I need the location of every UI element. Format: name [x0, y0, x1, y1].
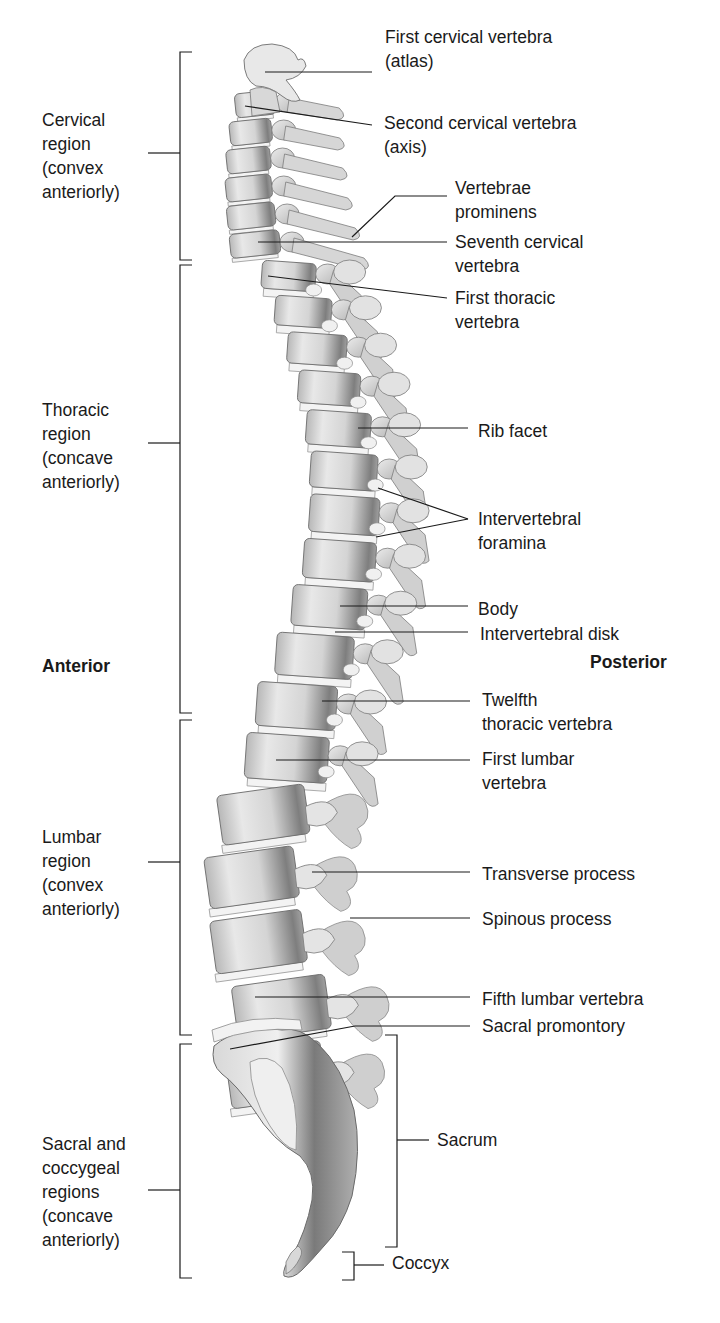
label-transverse-process: Transverse process	[482, 862, 635, 886]
label-twelfth-thoracic: Twelfth thoracic vertebra	[482, 688, 612, 736]
bracket-cervical	[180, 52, 192, 260]
vertebral-body-shape	[225, 146, 271, 174]
label-first-lumbar: First lumbar vertebra	[482, 747, 574, 795]
label-spinous-process: Spinous process	[482, 907, 611, 931]
posterior-label: Posterior	[590, 650, 667, 674]
vertebral-body-shape	[226, 202, 276, 231]
label-first-thoracic: First thoracic vertebra	[455, 286, 555, 334]
label-first-cervical: First cervical vertebra (atlas)	[385, 25, 552, 73]
transverse-process-shape	[354, 690, 386, 714]
rib-facet-shape	[306, 284, 322, 296]
region-label-lumbar: Lumbar region (convex anteriorly)	[42, 825, 120, 921]
rib-facet-shape	[361, 437, 377, 449]
vertebral-body-shape	[274, 632, 354, 680]
vertebral-column	[204, 44, 430, 1277]
rib-facet-shape	[326, 714, 342, 726]
region-label-thoracic: Thoracic region (concave anteriorly)	[42, 398, 120, 494]
spinous-process-shape	[284, 126, 345, 150]
transverse-process-shape	[371, 640, 403, 664]
spine-diagram: Cervical region (convex anteriorly)Thora…	[0, 0, 720, 1323]
spinous-process-shape	[283, 154, 348, 180]
label-rib-facet: Rib facet	[478, 419, 547, 443]
bracket-sacrum	[385, 1035, 397, 1247]
region-label-cervical: Cervical region (convex anteriorly)	[42, 108, 120, 204]
transverse-process-shape	[346, 742, 378, 766]
transverse-process-shape	[385, 591, 417, 615]
transverse-process-shape	[378, 372, 410, 396]
transverse-process-shape	[395, 455, 427, 479]
label-sacrum: Sacrum	[437, 1128, 497, 1152]
leader-vertebrae-prominens	[352, 196, 447, 237]
transverse-process-shape	[365, 333, 397, 357]
rib-facet-shape	[321, 320, 337, 332]
rib-facet-shape	[357, 615, 373, 627]
label-second-cervical: Second cervical vertebra (axis)	[384, 111, 577, 159]
bracket-coccyx	[342, 1252, 354, 1280]
rib-facet-shape	[350, 396, 366, 408]
rib-facet-shape	[318, 766, 334, 778]
rib-facet-shape	[337, 357, 353, 369]
region-label-sacral-coccygeal: Sacral and coccygeal regions (concave an…	[42, 1132, 126, 1252]
label-fifth-lumbar: Fifth lumbar vertebra	[482, 987, 643, 1011]
label-seventh-cervical: Seventh cervical vertebra	[455, 230, 583, 278]
label-vertebrae-prominens: Vertebrae prominens	[455, 176, 537, 224]
label-intervertebral-disk: Intervertebral disk	[480, 622, 619, 646]
label-sacral-promontory: Sacral promontory	[482, 1014, 625, 1038]
vertebral-body-shape	[255, 681, 338, 730]
sacrum-shape	[213, 1029, 358, 1277]
label-body: Body	[478, 597, 518, 621]
vertebral-body-shape	[229, 118, 273, 146]
vertebral-body-shape	[225, 174, 273, 203]
transverse-process-shape	[334, 260, 366, 284]
label-coccyx: Coccyx	[392, 1251, 449, 1275]
bracket-thoracic	[180, 265, 192, 713]
axis-shape	[250, 87, 280, 116]
rib-facet-shape	[343, 664, 359, 676]
vertebral-body-shape	[291, 584, 368, 630]
vertebral-body-shape	[229, 229, 281, 258]
bracket-lumbar	[180, 720, 192, 1035]
anterior-label: Anterior	[42, 654, 110, 678]
transverse-process-shape	[349, 296, 381, 320]
bracket-sacral-coccygeal	[180, 1044, 192, 1278]
vertebral-body-shape	[244, 732, 330, 783]
transverse-process-shape	[397, 499, 429, 523]
rib-facet-shape	[369, 523, 385, 535]
rib-facet-shape	[366, 568, 382, 580]
transverse-process-shape	[389, 413, 421, 437]
label-intervertebral-foramina: Intervertebral foramina	[478, 507, 581, 555]
transverse-process-shape	[394, 544, 426, 568]
